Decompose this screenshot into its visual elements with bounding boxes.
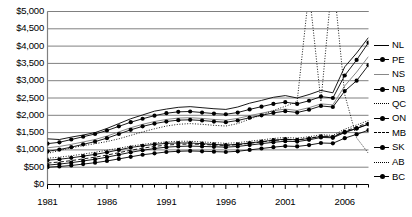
series-marker-pe	[307, 99, 311, 103]
series-marker-bc	[93, 161, 97, 165]
legend-swatch-icon	[374, 68, 389, 80]
legend-item-nb[interactable]: NB	[374, 82, 412, 97]
legend-marker-dot-icon	[380, 57, 385, 62]
x-axis-tick-label: 2006	[325, 196, 365, 207]
series-marker-bc	[366, 128, 370, 132]
legend-swatch-icon	[374, 98, 389, 110]
series-marker-nb	[355, 79, 359, 83]
legend-item-pe[interactable]: PE	[374, 53, 412, 68]
y-axis-tick-label: $3,000	[0, 74, 44, 85]
series-marker-nb	[188, 118, 192, 122]
chart-legend: NLPENSNBQCONMBSKABBC	[374, 38, 412, 184]
series-marker-bc	[45, 165, 49, 169]
y-axis-tick-label: $3,500	[0, 57, 44, 68]
series-marker-pe	[355, 58, 359, 62]
legend-item-mb[interactable]: MB	[374, 126, 412, 141]
y-axis-tick-label: $5,000	[0, 5, 44, 16]
series-marker-nb	[69, 145, 73, 149]
series-marker-sk	[259, 142, 263, 146]
series-marker-nb	[164, 119, 168, 123]
y-axis-tick-label: $0	[0, 178, 44, 189]
series-marker-sk	[295, 140, 299, 144]
series-marker-bc	[152, 151, 156, 155]
y-axis-tick-label: $2,000	[0, 109, 44, 120]
legend-swatch-icon	[374, 54, 389, 66]
series-marker-nb	[105, 136, 109, 140]
series-marker-nb	[141, 124, 145, 128]
series-line-pe	[48, 43, 369, 144]
series-marker-sk	[105, 155, 109, 159]
legend-item-ab[interactable]: AB	[374, 155, 412, 170]
series-marker-bc	[355, 132, 359, 136]
legend-label: MB	[392, 127, 406, 139]
x-axis-tick-label: 1981	[28, 196, 68, 207]
series-marker-bc	[283, 144, 287, 148]
series-marker-sk	[283, 139, 287, 143]
series-marker-pe	[117, 124, 121, 128]
legend-swatch-icon	[374, 141, 389, 153]
series-marker-bc	[81, 162, 85, 166]
series-marker-on	[129, 145, 133, 149]
series-marker-sk	[271, 140, 275, 144]
series-marker-pe	[224, 112, 228, 116]
series-marker-sk	[117, 153, 121, 157]
series-marker-bc	[117, 157, 121, 161]
series-marker-sk	[141, 148, 145, 152]
series-marker-bc	[343, 136, 347, 140]
series-marker-pe	[93, 132, 97, 136]
series-marker-bc	[236, 149, 240, 153]
series-marker-sk	[331, 136, 335, 140]
legend-item-nl[interactable]: NL	[374, 38, 412, 53]
legend-label: NB	[392, 83, 405, 95]
series-marker-nb	[224, 120, 228, 124]
series-marker-bc	[271, 145, 275, 149]
series-marker-nb	[152, 122, 156, 126]
series-marker-on	[45, 158, 49, 162]
series-marker-bc	[105, 159, 109, 163]
legend-label: PE	[392, 54, 404, 66]
series-marker-sk	[176, 144, 180, 148]
series-marker-nb	[200, 118, 204, 122]
legend-label: NS	[392, 68, 405, 80]
series-marker-sk	[164, 145, 168, 149]
y-axis-tick-label: $1,000	[0, 143, 44, 154]
legend-item-on[interactable]: ON	[374, 111, 412, 126]
legend-item-sk[interactable]: SK	[374, 140, 412, 155]
series-marker-nb	[366, 63, 370, 67]
series-marker-sk	[307, 138, 311, 142]
legend-label: NL	[392, 39, 404, 51]
series-marker-bc	[129, 155, 133, 159]
series-marker-bc	[248, 148, 252, 152]
series-marker-bc	[141, 153, 145, 157]
series-marker-pe	[69, 137, 73, 141]
series-marker-pe	[259, 105, 263, 109]
legend-swatch-icon	[374, 127, 389, 139]
series-marker-bc	[307, 143, 311, 147]
series-marker-pe	[366, 41, 370, 45]
series-marker-nb	[129, 128, 133, 132]
series-marker-nb	[295, 110, 299, 114]
plot-area	[0, 0, 412, 217]
legend-marker-dot-icon	[380, 145, 385, 150]
series-marker-nb	[236, 118, 240, 122]
y-axis-tick-label: $4,500	[0, 22, 44, 33]
legend-item-qc[interactable]: QC	[374, 96, 412, 111]
legend-swatch-icon	[374, 39, 389, 51]
legend-swatch-icon	[374, 83, 389, 95]
series-marker-nb	[117, 132, 121, 136]
series-marker-pe	[45, 142, 49, 146]
series-marker-pe	[129, 120, 133, 124]
series-marker-sk	[129, 150, 133, 154]
legend-item-ns[interactable]: NS	[374, 67, 412, 82]
legend-marker-dot-icon	[380, 116, 385, 121]
x-axis-tick-label: 1996	[206, 196, 246, 207]
series-marker-sk	[248, 143, 252, 147]
legend-label: SK	[392, 141, 404, 153]
legend-item-bc[interactable]: BC	[374, 169, 412, 184]
series-marker-sk	[224, 145, 228, 149]
series-marker-nb	[212, 119, 216, 123]
series-marker-nb	[331, 105, 335, 109]
series-marker-pe	[200, 110, 204, 114]
series-marker-pe	[164, 111, 168, 115]
series-marker-nb	[45, 149, 49, 153]
